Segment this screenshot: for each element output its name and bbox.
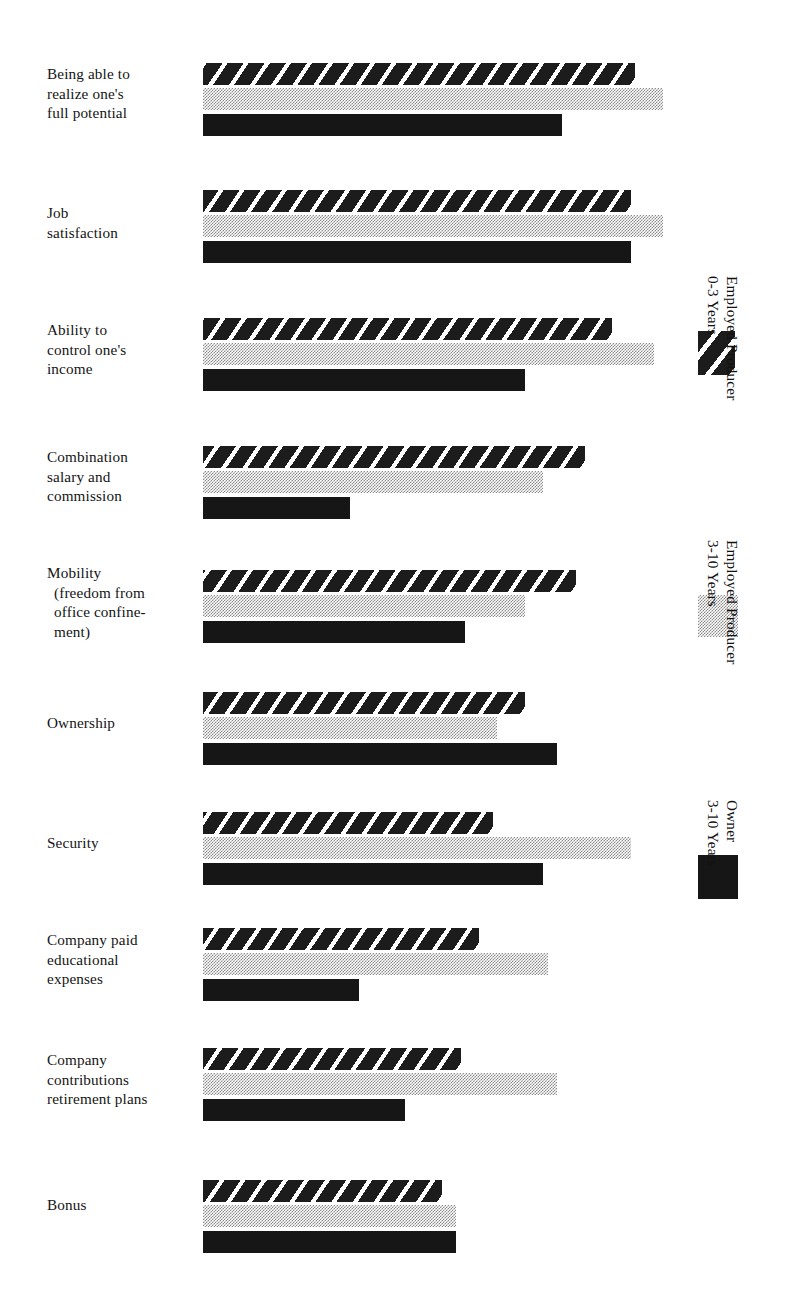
bar-series-0 [203,1048,461,1070]
category-label-4: Mobility (freedom from office confine- m… [47,563,206,641]
bar-series-1 [203,837,631,859]
bar-series-0 [203,1180,442,1202]
bar-series-1 [203,717,497,739]
category-label-0: Being able to realize one's full potenti… [47,64,199,123]
bar-series-2 [203,369,525,391]
bar-series-1 [203,215,663,237]
category-label-2: Ability to control one's income [47,320,199,379]
bar-series-1 [203,471,543,493]
category-label-1: Job satisfaction [47,203,199,242]
bar-series-2 [203,497,350,519]
legend-label-2: Owner 3-10 Years [704,800,742,990]
bar-series-2 [203,743,557,765]
bar-series-2 [203,1231,456,1253]
legend-entry-0: Employed Producer 0-3 Years [690,276,802,466]
bar-series-2 [203,241,631,263]
legend-label-0: Employed Producer 0-3 Years [704,276,742,466]
bar-series-0 [203,812,493,834]
bar-series-0 [203,446,585,468]
category-label-9: Bonus [47,1195,199,1215]
legend-entry-2: Owner 3-10 Years [690,800,802,990]
bar-series-1 [203,595,525,617]
bar-series-0 [203,318,612,340]
horizontal-bar-chart: Being able to realize one's full potenti… [0,0,802,1312]
category-label-6: Security [47,833,199,853]
bar-series-0 [203,190,631,212]
bar-series-0 [203,692,525,714]
bar-series-1 [203,88,663,110]
bar-series-0 [203,928,479,950]
bar-series-2 [203,621,465,643]
bar-series-1 [203,343,654,365]
legend-label-1: Employed Producer 3-10 Years [704,540,742,730]
category-label-7: Company paid educational expenses [47,930,199,989]
chart-legend: Employed Producer 0-3 Years Employed Pro… [690,0,802,1312]
bar-series-1 [203,1073,557,1095]
bar-series-2 [203,114,562,136]
bar-series-2 [203,979,359,1001]
bar-series-2 [203,1099,405,1121]
bar-series-0 [203,570,576,592]
bar-series-2 [203,863,543,885]
category-label-8: Company contributions retirement plans [47,1050,199,1109]
legend-entry-1: Employed Producer 3-10 Years [690,540,802,730]
bar-series-0 [203,63,635,85]
bar-series-1 [203,953,548,975]
category-label-5: Ownership [47,713,199,733]
category-label-3: Combination salary and commission [47,447,199,506]
bar-series-1 [203,1205,456,1227]
